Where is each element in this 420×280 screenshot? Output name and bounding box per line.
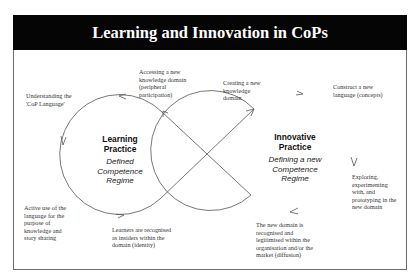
innovative-practice-title: Innovative Practice [260,133,330,152]
label-new-domain: The new domain isrecognised andlegitimis… [256,221,313,259]
learning-practice-title: Learning Practice [85,135,155,154]
label-learners: Learners are recognisedas insiders withi… [112,226,171,249]
label-understanding: Understanding the'CoP Language' [26,92,72,107]
label-creating: Creating a newknowledgedomain [223,79,260,102]
label-accessing: Accessing a newknowledge domain(peripher… [139,68,186,98]
learning-cycle-arc [60,95,162,215]
innovative-practice-subtitle: Defining a new Competence Regime [250,155,340,184]
label-active-use: Active use of thelanguage for thepurpose… [24,204,66,242]
label-construct: Construct a newlanguage (concepts) [333,83,383,98]
learning-practice-subtitle: Defined Competence Regime [80,157,160,186]
label-exploring: Exploring,experimentingwith, andprototyp… [352,173,396,211]
